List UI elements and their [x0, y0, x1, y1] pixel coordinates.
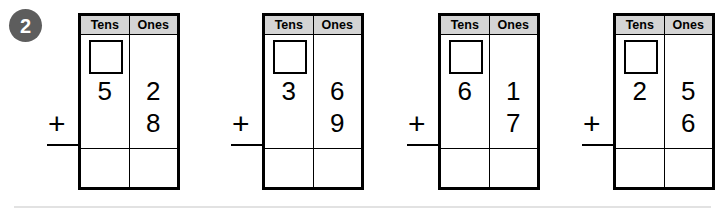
tens-digit: 5	[81, 75, 129, 107]
ones-digit-top: 6	[314, 75, 362, 107]
ones-digit-bottom: 9	[314, 107, 362, 139]
column-header-ones: Ones	[489, 16, 538, 35]
ones-addend-cell: 28	[129, 35, 178, 149]
answer-cell-tens[interactable]	[441, 149, 490, 188]
tens-digit: 2	[616, 75, 664, 107]
addition-problem: +TensOnes256	[613, 13, 715, 190]
plus-operator: +	[583, 109, 601, 139]
addend-row: 528	[81, 35, 178, 149]
tens-addend-cell: 5	[81, 35, 130, 149]
plus-operator: +	[232, 109, 250, 139]
plus-operator: +	[48, 109, 66, 139]
column-header-ones: Ones	[129, 16, 178, 35]
tens-digit: 6	[441, 75, 489, 107]
bottom-divider	[14, 206, 711, 208]
tens-addend-cell: 6	[441, 35, 490, 149]
ones-digit-top: 1	[490, 75, 538, 107]
grid-header-row: TensOnes	[265, 16, 362, 35]
addition-problem: +TensOnes617	[438, 13, 540, 190]
column-header-tens: Tens	[441, 16, 490, 35]
answer-cell-tens[interactable]	[265, 149, 314, 188]
answer-row	[616, 149, 713, 188]
problem-number-badge: 2	[9, 9, 42, 42]
answer-cell-ones[interactable]	[313, 149, 362, 188]
answer-cell-tens[interactable]	[81, 149, 130, 188]
column-header-ones: Ones	[664, 16, 713, 35]
answer-row	[441, 149, 538, 188]
grid-header-row: TensOnes	[81, 16, 178, 35]
grid-header-row: TensOnes	[441, 16, 538, 35]
ones-digit-top: 5	[665, 75, 713, 107]
ones-digit-bottom: 7	[490, 107, 538, 139]
column-header-tens: Tens	[616, 16, 665, 35]
ones-addend-cell: 69	[313, 35, 362, 149]
ones-addend-cell: 56	[664, 35, 713, 149]
place-value-grid: TensOnes256	[613, 13, 715, 190]
tens-addend-cell: 2	[616, 35, 665, 149]
answer-cell-ones[interactable]	[129, 149, 178, 188]
addition-problem: +TensOnes369	[262, 13, 364, 190]
ones-addend-cell: 17	[489, 35, 538, 149]
answer-cell-ones[interactable]	[664, 149, 713, 188]
column-header-ones: Ones	[313, 16, 362, 35]
tens-addend-cell: 3	[265, 35, 314, 149]
place-value-grid: TensOnes369	[262, 13, 364, 190]
addend-row: 256	[616, 35, 713, 149]
tens-digit: 3	[265, 75, 313, 107]
grid-header-row: TensOnes	[616, 16, 713, 35]
plus-operator: +	[408, 109, 426, 139]
column-header-tens: Tens	[81, 16, 130, 35]
answer-cell-ones[interactable]	[489, 149, 538, 188]
ones-digit-bottom: 8	[130, 107, 178, 139]
addend-row: 617	[441, 35, 538, 149]
place-value-grid: TensOnes617	[438, 13, 540, 190]
ones-digit-top: 2	[130, 75, 178, 107]
column-header-tens: Tens	[265, 16, 314, 35]
addend-row: 369	[265, 35, 362, 149]
addition-problem: +TensOnes528	[78, 13, 180, 190]
place-value-grid: TensOnes528	[78, 13, 180, 190]
answer-row	[81, 149, 178, 188]
ones-digit-bottom: 6	[665, 107, 713, 139]
answer-cell-tens[interactable]	[616, 149, 665, 188]
answer-row	[265, 149, 362, 188]
